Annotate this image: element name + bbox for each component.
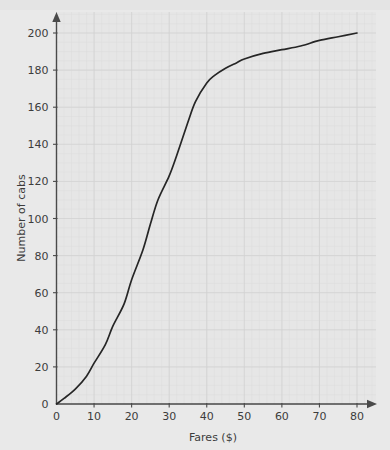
- y-tick-label: 120: [28, 175, 49, 188]
- y-tick-label: 80: [35, 250, 49, 263]
- x-tick-label: 50: [237, 410, 251, 423]
- x-tick-label: 60: [275, 410, 289, 423]
- x-tick-label: 10: [87, 410, 101, 423]
- y-tick-label: 60: [35, 287, 49, 300]
- y-tick-label: 160: [28, 101, 49, 114]
- x-tick-label: 70: [312, 410, 326, 423]
- y-axis-title: Number of cabs: [15, 174, 28, 262]
- cumulative-frequency-chart: 020406080100120140160180200 010203040506…: [0, 0, 390, 450]
- chart-container: 020406080100120140160180200 010203040506…: [0, 0, 390, 450]
- y-tick-label: 200: [28, 27, 49, 40]
- x-axis-title: Fares ($): [189, 431, 237, 444]
- y-tick-label: 100: [28, 213, 49, 226]
- y-tick-label: 0: [42, 398, 49, 411]
- x-tick-label: 30: [162, 410, 176, 423]
- y-tick-label: 40: [35, 324, 49, 337]
- x-tick-label: 0: [53, 410, 60, 423]
- y-tick-label: 180: [28, 64, 49, 77]
- y-tick-label: 140: [28, 138, 49, 151]
- x-axis-tick-labels: 01020304050607080: [53, 410, 364, 423]
- y-tick-label: 20: [35, 361, 49, 374]
- x-tick-label: 80: [350, 410, 364, 423]
- x-tick-label: 40: [200, 410, 214, 423]
- x-tick-label: 20: [125, 410, 139, 423]
- cropped-title-strip: [0, 0, 390, 10]
